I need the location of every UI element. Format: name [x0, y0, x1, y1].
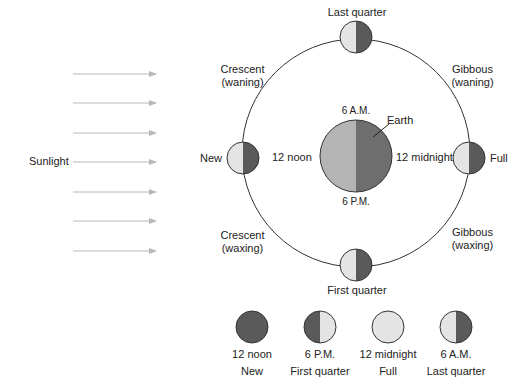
earth-time-noon: 12 noon	[272, 151, 312, 164]
moon-phase-diagram	[0, 0, 529, 390]
sunlight-label: Sunlight	[29, 155, 69, 168]
moon-full-orbit	[453, 142, 485, 174]
phase-label-first-quarter: First quarter	[322, 284, 392, 297]
phase-label-line: Crescent	[215, 63, 270, 76]
earth-time-midnight: 12 midnight	[396, 151, 453, 164]
phase-label-line: (waxing)	[215, 242, 270, 255]
phase-label-gibbous-waning: Gibbous (waning)	[445, 63, 500, 89]
legend-time-first-quarter: 6 P.M.	[285, 348, 355, 361]
moon-new-orbit	[227, 142, 259, 174]
legend-time-new: 12 noon	[217, 348, 287, 361]
legend-moon-first-quarter	[304, 311, 336, 343]
phase-label-new: New	[200, 152, 222, 165]
legend-moon-last-quarter	[440, 311, 472, 343]
phase-label-line: (waxing)	[445, 239, 500, 252]
earth-time-6am: 6 A.M.	[326, 104, 386, 117]
sunlight-arrows	[73, 74, 156, 251]
earth-label: Earth	[387, 114, 413, 127]
legend-phase-first-quarter: First quarter	[285, 365, 355, 378]
phase-label-line: Gibbous	[445, 226, 500, 239]
legend-phase-full: Full	[353, 365, 423, 378]
earth-globe	[320, 120, 392, 192]
moon-last-quarter-orbit	[340, 21, 372, 53]
moon-first-quarter-orbit	[340, 249, 372, 281]
phase-label-line: Gibbous	[445, 63, 500, 76]
phase-label-line: (waning)	[445, 76, 500, 89]
legend-phase-new: New	[217, 365, 287, 378]
phase-label-line: Crescent	[215, 229, 270, 242]
phase-label-crescent-waning: Crescent (waning)	[215, 63, 270, 89]
legend-time-full: 12 midnight	[353, 348, 423, 361]
earth-time-6pm: 6 P.M.	[326, 195, 386, 208]
legend-moon-full	[372, 311, 404, 343]
phase-label-line: (waning)	[215, 76, 270, 89]
phase-label-gibbous-waxing: Gibbous (waxing)	[445, 226, 500, 252]
phase-label-crescent-waxing: Crescent (waxing)	[215, 229, 270, 255]
phase-label-last-quarter: Last quarter	[322, 6, 392, 19]
legend-moon-new	[236, 311, 268, 343]
phase-label-full: Full	[490, 152, 508, 165]
legend-time-last-quarter: 6 A.M.	[421, 348, 491, 361]
legend-phase-last-quarter: Last quarter	[421, 365, 491, 378]
